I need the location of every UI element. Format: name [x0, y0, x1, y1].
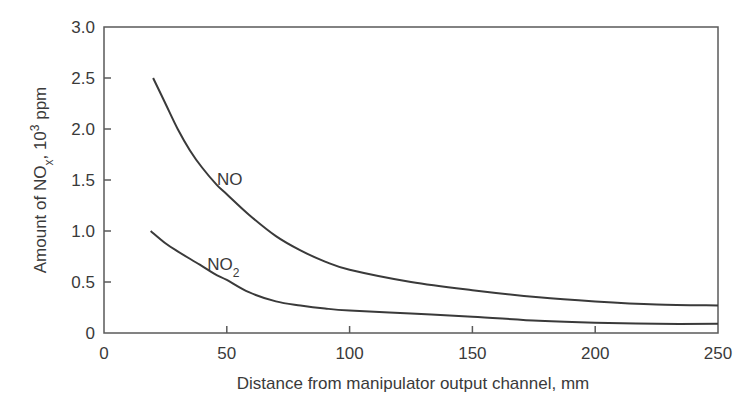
y-tick-label: 1.0 [71, 222, 95, 241]
y-tick-label: 3.0 [71, 18, 95, 37]
series-label-no2: NO2 [207, 255, 240, 280]
nox-line-chart: 050100150200250 00.51.01.52.02.53.0 NONO… [0, 0, 743, 417]
x-ticks: 050100150200250 [99, 326, 732, 363]
y-axis-title: Amount of NOx, 103 ppm [28, 87, 56, 274]
series-labels: NONO2 [207, 170, 242, 280]
x-axis-title: Distance from manipulator output channel… [237, 374, 589, 393]
y-tick-label: 0 [86, 324, 95, 343]
plot-frame [104, 27, 718, 333]
y-axis-title-pre: Amount of NO [31, 166, 50, 274]
x-tick-label: 50 [217, 344, 236, 363]
y-tick-label: 0.5 [71, 273, 95, 292]
y-tick-label: 2.5 [71, 69, 95, 88]
y-ticks: 00.51.01.52.02.53.0 [71, 18, 111, 343]
series-lines [151, 78, 718, 324]
series-label-no: NO [217, 170, 243, 189]
x-tick-label: 200 [581, 344, 609, 363]
y-tick-label: 1.5 [71, 171, 95, 190]
x-tick-label: 100 [335, 344, 363, 363]
y-axis-title-mid: , 10 [31, 131, 50, 159]
x-tick-label: 150 [458, 344, 486, 363]
y-axis-title-post: ppm [31, 87, 50, 125]
y-tick-label: 2.0 [71, 120, 95, 139]
x-tick-label: 0 [99, 344, 108, 363]
x-tick-label: 250 [704, 344, 732, 363]
